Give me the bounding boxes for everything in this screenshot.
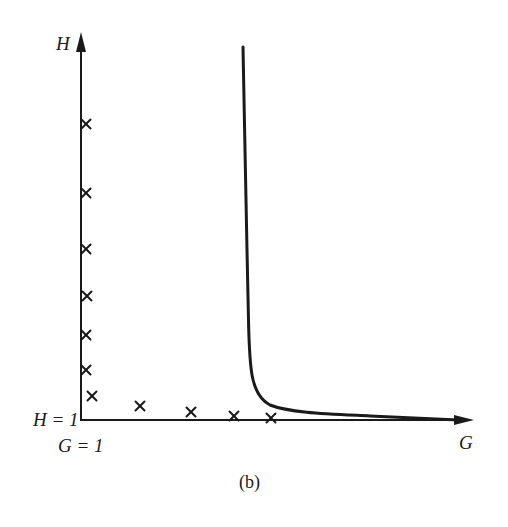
cross-marker-icon xyxy=(82,331,91,340)
cross-marker-icon xyxy=(88,392,97,401)
g-origin-label: G = 1 xyxy=(58,436,104,455)
hyperbola-curve xyxy=(243,47,458,420)
cross-marker-icon xyxy=(82,189,91,198)
g-origin-text: G = 1 xyxy=(58,435,104,456)
x-axis-label: G xyxy=(459,433,473,452)
h-origin-label: H = 1 xyxy=(33,410,79,429)
cross-marker-icon xyxy=(267,414,276,423)
h-origin-text: H = 1 xyxy=(33,409,79,430)
y-axis-arrow-icon xyxy=(76,32,86,52)
cross-marker-icon xyxy=(82,366,91,375)
y-axis-label: H xyxy=(56,34,70,53)
figure-caption: (b) xyxy=(239,473,260,491)
cross-marker-icon xyxy=(82,120,91,129)
cross-marker-icon xyxy=(187,408,196,417)
cross-marker-icon xyxy=(136,402,145,411)
cross-marker-icon xyxy=(83,292,92,301)
cross-marker-icon xyxy=(82,245,91,254)
